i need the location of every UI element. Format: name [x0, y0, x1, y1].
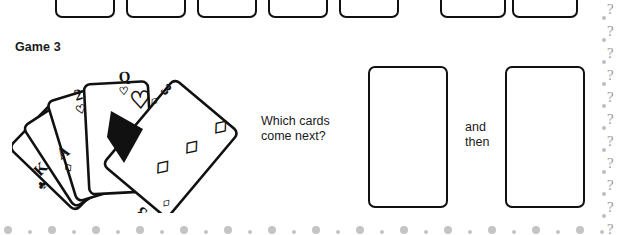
hearts-suit-icon: ♡ [118, 84, 129, 97]
previous-exercise-card-row: A ♥ ♥ 5 ♥ 3 ♥ ♥ 5 ♥ ♥ [0, 0, 580, 22]
top-row-card-3: ♥ 3 [197, 0, 257, 18]
top-row-card-5: ♥ ♥ 5 [339, 0, 399, 18]
question-mark-icon: ? [607, 89, 614, 105]
top-row-card-4 [268, 0, 328, 18]
top-row-card-1: A [55, 0, 115, 18]
right-border-svg: ? ? ? ? ? ? ? ? ? ? ? [599, 0, 625, 235]
top-row-card-2: ♥ ♥ 5 [126, 0, 186, 18]
question-mark-icon: ? [607, 111, 614, 127]
worksheet-page: A ♥ ♥ 5 ♥ 3 ♥ ♥ 5 ♥ ♥ [0, 0, 625, 235]
question-text: Which cards come next? [261, 114, 330, 143]
question-mark-icon: ? [607, 155, 614, 171]
decorative-right-border: ? ? ? ? ? ? ? ? ? ? ? [599, 0, 625, 235]
top-row-card-7 [512, 0, 578, 18]
answer-slot-1[interactable] [368, 66, 448, 208]
question-mark-icon: ? [607, 177, 614, 193]
card-rank-3: 3 [133, 204, 150, 213]
question-mark-icon: ? [607, 23, 614, 39]
top-row-card-6: ♥ ♥ 6 [440, 0, 506, 18]
question-mark-icon: ? [607, 1, 614, 17]
card-fan-svg: K ♣ A ♢ 2 ♡ Q ♡ ♡ 3 ♢ ♢ ♢ ♢ ♢ 3 [12, 55, 262, 213]
card-rank-Q: Q [118, 68, 131, 85]
card-fan-illustration: K ♣ A ♢ 2 ♡ Q ♡ ♡ 3 ♢ ♢ ♢ ♢ ♢ 3 [12, 55, 262, 213]
bottom-border-svg [0, 213, 625, 235]
decorative-bottom-border [0, 213, 625, 235]
connector-text: and then [465, 120, 489, 149]
answer-slot-2[interactable] [505, 66, 585, 208]
question-mark-icon: ? [607, 45, 614, 61]
page-title: Game 3 [15, 40, 61, 54]
question-mark-icon: ? [607, 133, 614, 149]
question-mark-icon: ? [607, 67, 614, 83]
